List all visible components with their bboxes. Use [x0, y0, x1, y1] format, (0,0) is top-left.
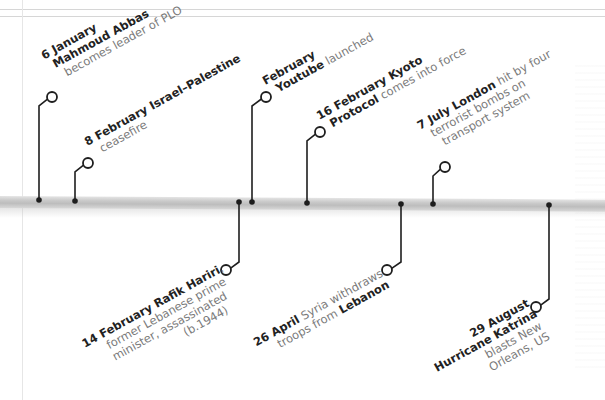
pin-stem — [75, 165, 84, 201]
timeline-dot-icon — [430, 201, 436, 207]
pin-16-february — [304, 127, 325, 206]
pin-stem — [307, 134, 316, 203]
pin-ring-icon — [83, 158, 93, 168]
pin-29-august — [531, 202, 552, 312]
timeline-dot-icon — [249, 199, 255, 205]
timeline-dot-icon — [72, 198, 78, 204]
pin-february-youtube — [249, 92, 271, 205]
pin-ring-icon — [47, 92, 57, 102]
timeline-dot-icon — [304, 200, 310, 206]
timeline-dot-icon — [236, 199, 242, 205]
pin-6-january — [36, 92, 57, 203]
pin-stem — [433, 169, 441, 204]
pin-stem — [541, 205, 549, 305]
pin-stem — [231, 202, 239, 268]
timeline-dot-icon — [398, 201, 404, 207]
pin-stem — [392, 204, 401, 268]
pin-stem — [39, 99, 48, 200]
pin-7-july — [430, 162, 450, 207]
timeline-dot-icon — [36, 197, 42, 203]
timeline-dot-icon — [546, 202, 552, 208]
pin-8-february — [72, 158, 93, 204]
pin-26-april — [382, 201, 404, 275]
pin-ring-icon — [382, 265, 392, 275]
pin-stem — [252, 99, 261, 202]
pin-14-february — [221, 199, 242, 275]
pin-ring-icon — [440, 162, 450, 172]
